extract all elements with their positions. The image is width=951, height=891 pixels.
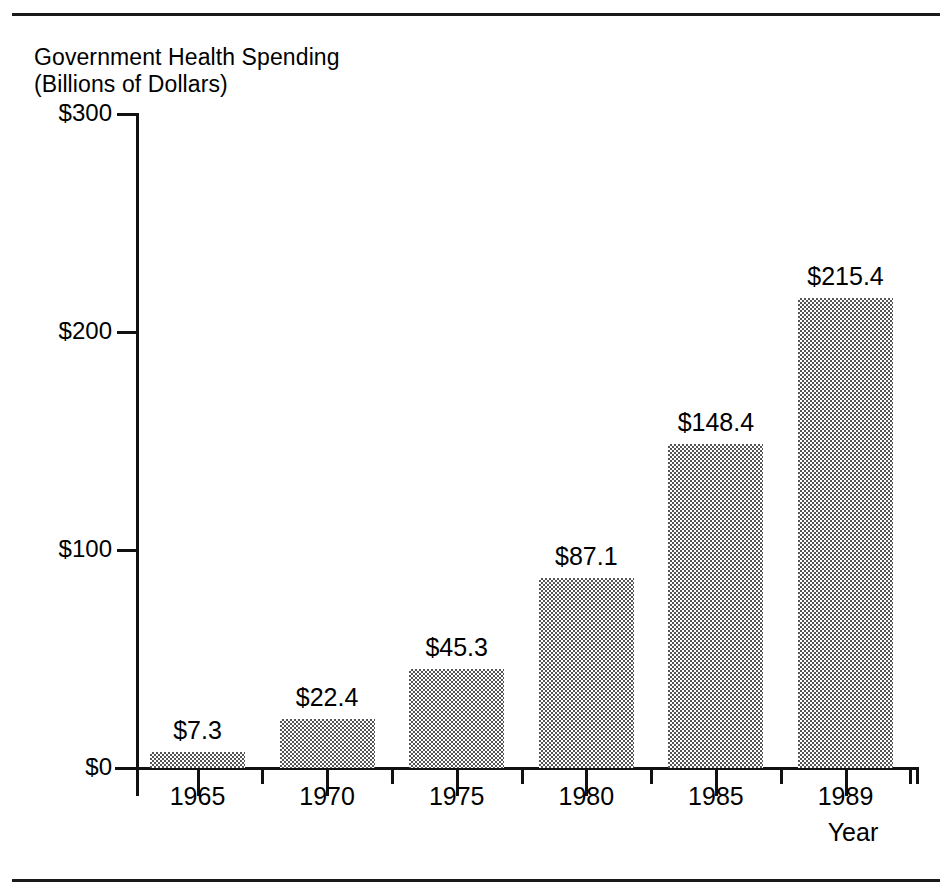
y-axis-tick <box>117 549 139 552</box>
bar <box>280 719 375 768</box>
x-axis-minor-tick <box>780 770 783 784</box>
x-axis-tick-label: 1985 <box>656 782 776 810</box>
bar <box>539 578 634 768</box>
bar <box>668 444 763 768</box>
x-axis-minor-tick <box>909 770 912 784</box>
bar-chart-plot: $0$100$200$300 $7.3$22.4$45.3$87.1$148.4… <box>0 0 951 891</box>
y-axis-tick-label: $300 <box>0 101 112 125</box>
y-axis-tick-label: $0 <box>0 755 112 779</box>
x-axis-tick-label: 1970 <box>267 782 387 810</box>
bar-value-label: $22.4 <box>247 685 407 710</box>
bar-value-label: $215.4 <box>766 264 926 289</box>
x-axis-tick-label: 1975 <box>397 782 517 810</box>
x-axis-tick-label: 1980 <box>526 782 646 810</box>
y-axis-tick-label: $200 <box>0 319 112 343</box>
y-axis-tick <box>117 113 139 116</box>
bar-value-label: $87.1 <box>506 544 666 569</box>
y-axis-line <box>136 114 139 782</box>
x-axis-tick-label: 1989 <box>786 782 906 810</box>
x-axis-minor-tick <box>650 770 653 784</box>
bar-value-label: $45.3 <box>377 635 537 660</box>
x-axis-minor-tick <box>391 770 394 784</box>
x-axis-end-tick <box>916 770 919 784</box>
bar <box>150 752 245 768</box>
x-axis-minor-tick <box>261 770 264 784</box>
x-axis-title: Year <box>793 818 913 847</box>
y-axis-tick-label: $100 <box>0 537 112 561</box>
bar <box>798 298 893 768</box>
bar-value-label: $148.4 <box>636 410 796 435</box>
bar <box>409 669 504 768</box>
bar-value-label: $7.3 <box>118 718 278 743</box>
x-axis-tick-label: 1965 <box>138 782 258 810</box>
x-axis-minor-tick <box>521 770 524 784</box>
y-axis-tick <box>117 331 139 334</box>
